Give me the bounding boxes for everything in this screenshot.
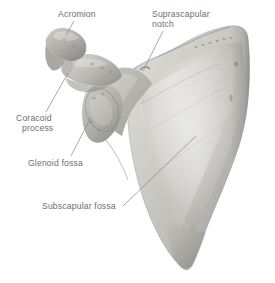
label-layer: Acromion Suprascapular notch Coracoid pr… (0, 0, 275, 283)
label-coracoid-process-line1: Coracoid (16, 113, 52, 123)
label-suprascapular-notch-line2: notch (152, 19, 210, 29)
label-coracoid-process: Coracoid process (16, 113, 53, 134)
label-acromion: Acromion (58, 9, 96, 19)
label-glenoid-fossa-line1: Glenoid fossa (28, 158, 83, 168)
label-coracoid-process-line2: process (16, 123, 53, 133)
label-acromion-line1: Acromion (58, 9, 96, 19)
label-suprascapular-notch: Suprascapular notch (152, 9, 210, 30)
label-subscapular-fossa-line1: Subscapular fossa (42, 201, 116, 211)
label-glenoid-fossa: Glenoid fossa (28, 158, 83, 168)
label-subscapular-fossa: Subscapular fossa (42, 201, 116, 211)
anatomy-figure: Acromion Suprascapular notch Coracoid pr… (0, 0, 275, 283)
label-suprascapular-notch-line1: Suprascapular (152, 9, 210, 19)
